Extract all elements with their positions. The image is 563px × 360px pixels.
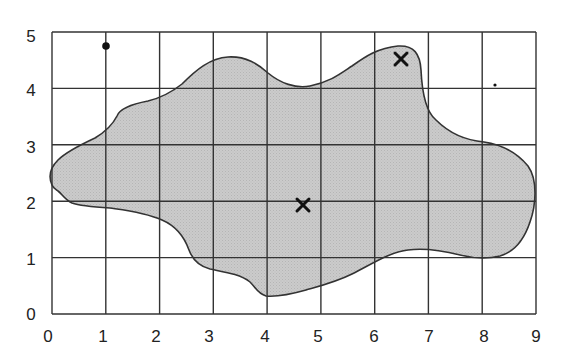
dot-small-icon (493, 83, 496, 86)
y-tick-label: 1 (26, 250, 35, 269)
x-tick-label: 1 (98, 327, 107, 346)
x-tick-label: 7 (424, 327, 433, 346)
x-tick-label: 8 (479, 327, 488, 346)
y-tick-label: 4 (26, 81, 35, 100)
x-tick-label: 3 (204, 327, 213, 346)
x-tick-label: 9 (531, 327, 540, 346)
coordinate-grid-figure: 0 1 2 3 4 5 6 7 8 9 0 1 2 3 4 5 (0, 0, 563, 360)
x-tick-label: 5 (313, 327, 322, 346)
x-axis-labels: 0 1 2 3 4 5 6 7 8 9 (43, 327, 540, 346)
y-tick-label: 2 (26, 194, 35, 213)
y-tick-label: 3 (26, 138, 35, 157)
y-tick-label: 5 (26, 27, 35, 46)
dot-large-icon (102, 42, 110, 50)
y-axis-labels: 0 1 2 3 4 5 (26, 27, 35, 324)
y-tick-label: 0 (26, 305, 35, 324)
x-tick-label: 0 (43, 327, 52, 346)
shaded-region (50, 46, 535, 296)
x-tick-label: 6 (369, 327, 378, 346)
x-tick-label: 4 (260, 327, 269, 346)
x-tick-label: 2 (151, 327, 160, 346)
